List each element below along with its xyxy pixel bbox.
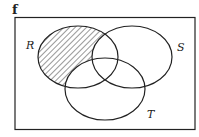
venn-diagram: f R S T (0, 0, 199, 137)
label-s: S (177, 41, 185, 54)
label-r: R (25, 39, 34, 52)
